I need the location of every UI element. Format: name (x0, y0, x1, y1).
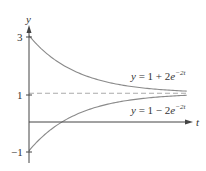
t-axis-label: t (196, 116, 200, 128)
y-axis-label: y (25, 13, 31, 25)
chart-svg: y t 3 1 −1 y = 1 + 2e−2t y = 1 − 2e−2t (0, 0, 206, 171)
upper-curve (29, 36, 187, 92)
axes (26, 25, 193, 163)
svg-text:y = 1 + 2e−2t: y = 1 + 2e−2t (130, 69, 186, 82)
tick-label-neg1: −1 (11, 146, 23, 158)
lower-curve-label: y = 1 − 2e−2t (130, 103, 186, 116)
svg-text:y = 1 − 2e−2t: y = 1 − 2e−2t (130, 103, 186, 116)
upper-curve-label: y = 1 + 2e−2t (130, 69, 186, 82)
curves (29, 36, 187, 151)
tick-label-1: 1 (17, 89, 23, 101)
t-axis-arrow-icon (185, 120, 193, 125)
chart: y t 3 1 −1 y = 1 + 2e−2t y = 1 − 2e−2t (0, 0, 206, 171)
tick-label-3: 3 (17, 31, 23, 43)
y-axis-arrow-icon (27, 25, 32, 33)
